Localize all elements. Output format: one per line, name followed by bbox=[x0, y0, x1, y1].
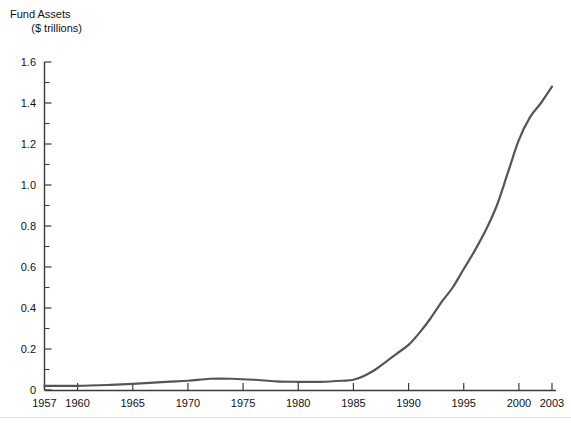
x-tick-label: 1995 bbox=[444, 398, 484, 409]
x-tick-label: 2003 bbox=[532, 398, 571, 409]
plot-area bbox=[0, 0, 571, 424]
y-tick-label: 0 bbox=[2, 385, 36, 396]
y-tick-label: 0.2 bbox=[2, 344, 36, 355]
y-tick-label: 1.6 bbox=[2, 57, 36, 68]
data-series-line bbox=[45, 87, 553, 386]
y-tick-label: 1.4 bbox=[2, 98, 36, 109]
y-tick-label: 0.4 bbox=[2, 303, 36, 314]
y-axis-major-ticks bbox=[45, 62, 52, 390]
y-tick-label: 1.2 bbox=[2, 139, 36, 150]
page-edge-artifact bbox=[0, 417, 571, 418]
x-tick-label: 1975 bbox=[223, 398, 263, 409]
axes bbox=[45, 62, 557, 391]
y-tick-label: 0.6 bbox=[2, 262, 36, 273]
x-tick-label: 1990 bbox=[389, 398, 429, 409]
y-tick-label: 1.0 bbox=[2, 180, 36, 191]
fund-assets-line-chart: Fund Assets ($ trillions) 00.20.40.60.81… bbox=[0, 0, 571, 424]
x-tick-label: 1980 bbox=[278, 398, 318, 409]
x-tick-label: 1960 bbox=[58, 398, 98, 409]
x-tick-label: 1965 bbox=[113, 398, 153, 409]
y-tick-label: 0.8 bbox=[2, 221, 36, 232]
x-tick-label: 1970 bbox=[168, 398, 208, 409]
x-tick-label: 1985 bbox=[333, 398, 373, 409]
